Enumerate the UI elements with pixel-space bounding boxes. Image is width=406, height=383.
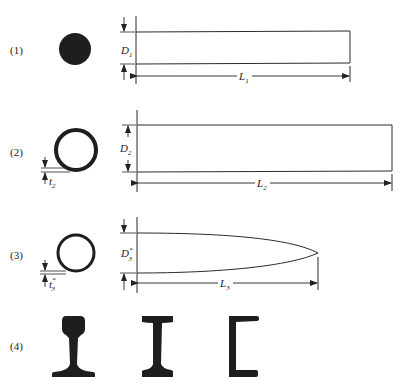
- panel-3-label: (3): [10, 249, 23, 262]
- panel-2: (2) t2 D2 L2: [10, 110, 392, 192]
- diameter-dimension: D*3: [120, 219, 136, 290]
- thickness-label: t2: [49, 175, 56, 190]
- length-label: L3: [219, 277, 230, 292]
- panel-4: (4): [10, 316, 259, 377]
- panel-3: (3) t*3 D*3 L3: [10, 217, 318, 293]
- hollow-circle-cross-section: [58, 235, 94, 271]
- panel-2-label: (2): [10, 146, 23, 159]
- rail-section-shape: [52, 316, 95, 377]
- hollow-circle-cross-section: [56, 130, 96, 170]
- i-beam-section-shape: [142, 316, 173, 377]
- solid-circle-cross-section: [59, 33, 91, 65]
- length-dimension: L1: [137, 66, 350, 85]
- thickness-label: t*3: [49, 276, 56, 293]
- panel-4-label: (4): [10, 340, 23, 353]
- beam-cross-section-diagram: (1) D1 L1 (2): [0, 0, 406, 383]
- length-dimension: L2: [138, 174, 392, 192]
- length-label: L2: [256, 177, 267, 192]
- diameter-label: D*3: [120, 246, 133, 263]
- thickness-dimension: t2: [41, 157, 70, 190]
- panel-1: (1) D1 L1: [10, 16, 350, 85]
- diameter-label: D2: [119, 142, 132, 157]
- diameter-label: D1: [120, 44, 132, 59]
- tapered-profile: [137, 233, 318, 273]
- diameter-dimension: D2: [119, 125, 136, 172]
- length-label: L1: [238, 70, 249, 85]
- diameter-dimension: D1: [120, 17, 135, 80]
- rectangle-profile: [136, 31, 350, 64]
- channel-section-shape: [229, 316, 259, 377]
- rectangle-profile: [137, 125, 392, 172]
- length-dimension: L3: [138, 257, 318, 292]
- panel-1-label: (1): [10, 44, 23, 57]
